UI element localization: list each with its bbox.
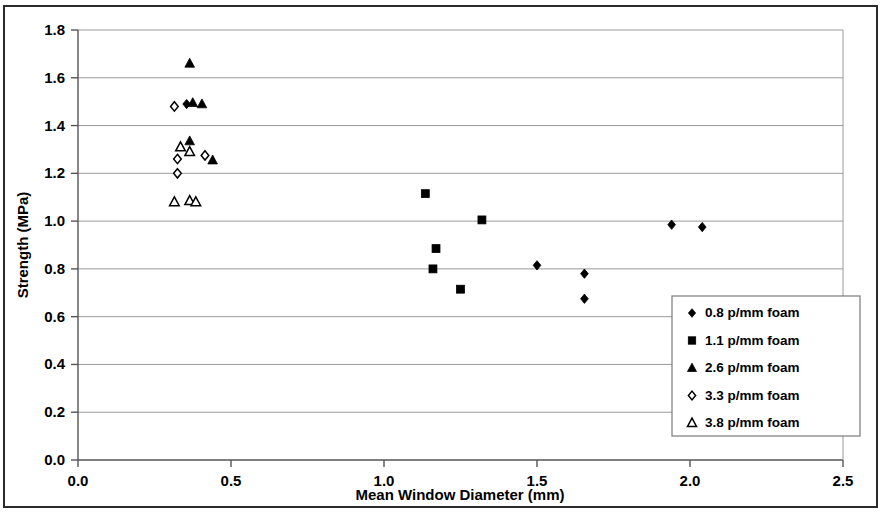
series-filled-diamond (183, 99, 706, 303)
data-point (171, 102, 179, 111)
y-tick-label: 0.8 (44, 260, 65, 277)
x-tick-label: 2.5 (833, 472, 854, 489)
x-tick-label: 0.0 (68, 472, 89, 489)
y-tick-label: 1.8 (44, 21, 65, 38)
data-point (421, 190, 429, 198)
x-axis-title: Mean Window Diameter (mm) (355, 486, 564, 503)
legend-entry: 3.8 p/mm foam (688, 415, 800, 430)
legend-label: 0.8 p/mm foam (705, 305, 800, 320)
legend-label: 3.8 p/mm foam (705, 415, 800, 430)
y-axis-title: Strength (MPa) (14, 192, 31, 299)
legend-label: 2.6 p/mm foam (705, 360, 800, 375)
legend-marker (688, 337, 695, 344)
data-point (698, 222, 706, 231)
data-point (457, 285, 465, 293)
chart-figure: 0.00.20.40.60.81.01.21.41.61.8 0.00.51.0… (0, 0, 883, 518)
legend-label: 1.1 p/mm foam (705, 333, 800, 348)
y-tick-label: 1.0 (44, 212, 65, 229)
data-point (185, 58, 195, 67)
y-tick-label: 0.0 (44, 451, 65, 468)
data-point (478, 216, 486, 224)
data-point (176, 142, 186, 151)
scatter-plot: 0.00.20.40.60.81.01.21.41.61.8 0.00.51.0… (0, 0, 883, 518)
data-point (581, 294, 589, 303)
y-tick-label: 0.2 (44, 403, 65, 420)
legend-entry: 2.6 p/mm foam (688, 360, 800, 375)
legend-label: 3.3 p/mm foam (705, 388, 800, 403)
y-tick-label-group: 0.00.20.40.60.81.01.21.41.61.8 (44, 21, 66, 468)
data-point (197, 99, 207, 108)
data-point (429, 265, 437, 273)
data-point (208, 155, 218, 164)
data-point (581, 269, 589, 278)
data-point-group (170, 58, 706, 303)
chart-legend: 0.8 p/mm foam1.1 p/mm foam2.6 p/mm foam3… (672, 296, 860, 436)
y-tick-label: 1.2 (44, 164, 65, 181)
data-point (174, 154, 182, 163)
y-tick-label: 1.6 (44, 69, 65, 86)
x-tick-label: 0.5 (221, 472, 242, 489)
data-point (201, 151, 209, 160)
series-filled-square (421, 190, 486, 293)
y-tick-label: 0.6 (44, 308, 65, 325)
x-tick-label: 2.0 (680, 472, 701, 489)
data-point (432, 245, 440, 253)
y-tick-label: 1.4 (44, 117, 66, 134)
data-point (174, 169, 182, 178)
legend-entry: 3.3 p/mm foam (688, 388, 799, 403)
y-tick-label: 0.4 (44, 355, 66, 372)
data-point (185, 136, 195, 145)
legend-entry: 0.8 p/mm foam (688, 305, 799, 320)
data-point (170, 197, 180, 206)
legend-entry: 1.1 p/mm foam (688, 333, 799, 348)
